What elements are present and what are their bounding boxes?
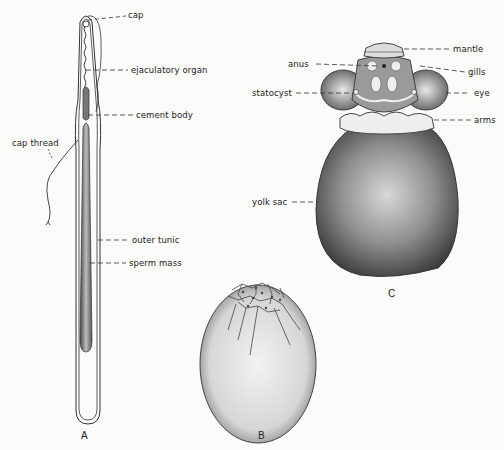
label-cap-thread: cap thread: [12, 138, 59, 148]
label-sperm-mass: sperm mass: [129, 258, 182, 268]
label-yolk-sac: yolk sac: [252, 197, 287, 207]
label-statocyst: statocyst: [252, 88, 292, 98]
panel-caption-a: A: [81, 430, 88, 441]
label-outer-tunic: outer tunic: [132, 235, 180, 245]
diagram-artwork: [0, 0, 504, 450]
hatchling-drawing: [292, 43, 473, 276]
label-cap: cap: [128, 10, 144, 20]
panel-caption-c: C: [388, 288, 395, 299]
label-mantle: mantle: [453, 44, 483, 54]
label-ejaculatory-organ: ejaculatory organ: [131, 65, 207, 75]
label-arms: arms: [474, 115, 496, 125]
label-eye: eye: [474, 88, 490, 98]
label-cement-body: cement body: [136, 110, 193, 120]
egg-drawing: [200, 283, 316, 443]
label-gills: gills: [468, 67, 485, 77]
label-anus: anus: [288, 59, 309, 69]
panel-caption-b: B: [258, 430, 265, 441]
spermatophore-drawing: [46, 16, 134, 424]
